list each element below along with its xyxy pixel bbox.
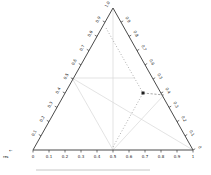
tick-mark: [193, 149, 195, 150]
grid-line: [72, 78, 113, 150]
tick-mark: [169, 106, 171, 107]
tick-mark: [55, 106, 57, 107]
tick-mark: [87, 49, 89, 50]
tick-label: 0.5: [110, 154, 117, 159]
tick-label: 0.8: [86, 29, 94, 37]
tick-label: 0.1: [46, 154, 53, 159]
tick-label: 0.6: [148, 58, 156, 66]
corner-arrow-icon: ←: [9, 148, 13, 153]
tick-label: 0: [197, 145, 203, 150]
tick-mark: [137, 49, 139, 50]
tick-label: 0.7: [140, 44, 148, 52]
tick-label: 0.2: [38, 114, 46, 122]
grid-line: [113, 96, 163, 150]
tick-mark: [63, 92, 65, 93]
tick-mark: [185, 135, 187, 136]
tick-label: 0.8: [132, 30, 140, 38]
tick-mark: [103, 21, 105, 22]
tick-label: 0.6: [126, 154, 133, 159]
grid-line: [72, 78, 193, 150]
tick-mark: [121, 21, 123, 22]
tick-label: 0.5: [62, 72, 70, 80]
tick-label: 0.4: [54, 86, 62, 94]
tick-label: 0.4: [164, 86, 172, 94]
tick-mark: [79, 64, 81, 65]
tick-label: 0.1: [188, 129, 196, 137]
tick-label: 0.9: [94, 15, 102, 23]
data-point-marker: [142, 92, 145, 95]
tick-label: 0.2: [180, 115, 188, 123]
tick-mark: [39, 135, 41, 136]
axis-corner-label: res: [3, 155, 9, 159]
tick-mark: [161, 92, 163, 93]
tick-label: 0.9: [124, 15, 132, 23]
tick-label: 0.4: [94, 154, 101, 159]
tick-label: 0.2: [62, 154, 69, 159]
tick-label: 0.9: [174, 154, 181, 159]
tick-mark: [95, 35, 97, 36]
tick-mark: [145, 64, 147, 65]
tick-label: 0.3: [172, 101, 180, 109]
tick-label: 0.1: [30, 129, 38, 137]
tick-mark: [47, 120, 49, 121]
tick-label: 0.3: [46, 100, 54, 108]
tick-label: 0: [32, 154, 35, 159]
apex-tick-label: 1.0: [103, 0, 111, 8]
ternary-diagram-figure: 00.10.20.30.40.50.60.70.80.910.10.20.30.…: [0, 0, 211, 175]
tick-mark: [129, 35, 131, 36]
guide-line: [106, 28, 143, 93]
guide-line: [113, 93, 143, 147]
tick-label: 0.7: [142, 154, 149, 159]
tick-label: 0.5: [156, 72, 164, 80]
tick-label: 0.3: [78, 154, 85, 159]
tick-label: 0.7: [78, 43, 86, 51]
tick-mark: [177, 120, 179, 121]
tick-label: 1: [192, 154, 195, 159]
ternary-plot-svg: 00.10.20.30.40.50.60.70.80.910.10.20.30.…: [0, 0, 211, 175]
tick-label: 0.8: [158, 154, 165, 159]
tick-mark: [153, 78, 155, 79]
tick-label: 0.6: [70, 58, 78, 66]
